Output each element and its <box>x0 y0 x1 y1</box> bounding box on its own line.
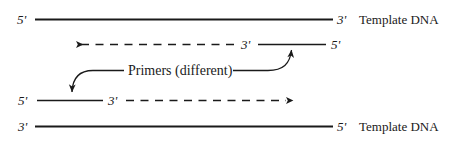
primers-annotation-label: Primers (different) <box>128 64 232 77</box>
primer-leader-left <box>72 71 124 93</box>
bottom-template-right-end-label: 5' <box>337 120 346 133</box>
bottom-primer-left-end-label: 5' <box>18 94 27 107</box>
primer-leader-right-path <box>233 50 292 71</box>
top-primer-right-end-label: 5' <box>331 38 340 51</box>
primer-leader-left-path <box>72 71 124 93</box>
top-primer-extension-label: 3' <box>241 38 250 51</box>
bottom-template-name-label: Template DNA <box>359 120 439 133</box>
primer-leader-right <box>233 50 292 71</box>
top-template-name-label: Template DNA <box>359 13 439 26</box>
top-template-right-end-label: 3' <box>337 13 346 26</box>
pcr-primer-diagram: 5' 3' Template DNA 3' 5' Primers (differ… <box>0 0 453 144</box>
top-template-left-end-label: 5' <box>17 13 26 26</box>
bottom-primer-extension-label: 3' <box>108 94 117 107</box>
bottom-template-left-end-label: 3' <box>18 120 27 133</box>
